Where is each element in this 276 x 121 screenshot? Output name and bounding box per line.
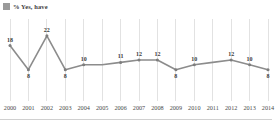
value-label-2004: 10 xyxy=(81,56,87,62)
value-label-2007: 12 xyxy=(136,51,142,57)
data-point-2013 xyxy=(248,63,251,66)
value-label-2000: 18 xyxy=(7,37,13,43)
data-point-2012 xyxy=(230,59,233,62)
value-label-2001: 8 xyxy=(27,73,30,79)
x-tick-2005: 2005 xyxy=(96,104,108,112)
plot-area: 1882281011121281012108 xyxy=(0,19,276,101)
data-point-2004 xyxy=(82,63,85,66)
line-chart: % Yes, have 1882281011121281012108 20002… xyxy=(0,0,276,121)
value-label-2012: 12 xyxy=(228,51,234,57)
data-point-2007 xyxy=(138,59,141,62)
value-label-2010: 10 xyxy=(191,56,197,62)
x-tick-2009: 2009 xyxy=(170,104,182,112)
series-line xyxy=(0,19,276,101)
x-tick-2008: 2008 xyxy=(151,104,163,112)
x-tick-2007: 2007 xyxy=(133,104,145,112)
value-label-2013: 10 xyxy=(247,56,253,62)
legend-swatch-icon xyxy=(3,3,10,10)
value-label-2003: 8 xyxy=(64,73,67,79)
x-tick-2006: 2006 xyxy=(114,104,126,112)
data-point-2014 xyxy=(267,68,270,71)
x-tick-2010: 2010 xyxy=(188,104,200,112)
data-point-2010 xyxy=(193,63,196,66)
value-label-2008: 12 xyxy=(154,51,160,57)
data-point-2002 xyxy=(45,34,48,37)
data-point-2009 xyxy=(174,68,177,71)
x-tick-2002: 2002 xyxy=(41,104,53,112)
x-axis-line xyxy=(0,119,272,120)
data-point-2001 xyxy=(27,68,30,71)
data-point-2008 xyxy=(156,59,159,62)
value-label-2009: 8 xyxy=(174,73,177,79)
value-label-2002: 22 xyxy=(44,27,50,33)
value-label-2014: 8 xyxy=(267,73,270,79)
x-tick-2000: 2000 xyxy=(4,104,16,112)
x-tick-2001: 2001 xyxy=(22,104,34,112)
x-tick-2014: 2014 xyxy=(262,104,274,112)
x-tick-2013: 2013 xyxy=(243,104,255,112)
x-tick-2012: 2012 xyxy=(225,104,237,112)
data-point-2003 xyxy=(64,68,67,71)
value-label-2006: 11 xyxy=(118,53,124,59)
x-tick-2003: 2003 xyxy=(59,104,71,112)
data-point-2006 xyxy=(119,61,122,64)
legend-label: % Yes, have xyxy=(13,3,48,10)
x-axis-labels: 2000200120022003200420052006200720082009… xyxy=(0,104,276,118)
x-tick-2011: 2011 xyxy=(207,104,219,112)
x-tick-2004: 2004 xyxy=(78,104,90,112)
data-point-2000 xyxy=(9,44,12,47)
chart-legend: % Yes, have xyxy=(3,3,48,10)
